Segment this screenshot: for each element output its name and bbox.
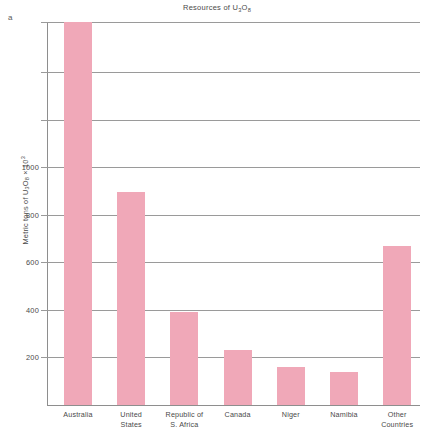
bar bbox=[383, 246, 411, 405]
gridline-800 bbox=[47, 215, 420, 216]
panel-letter: a bbox=[8, 13, 13, 22]
y-tick-mark-800 bbox=[41, 215, 47, 216]
y-axis-title-mid: O bbox=[21, 180, 30, 186]
gridline-600 bbox=[47, 262, 420, 263]
y-tick-mark-1610 bbox=[41, 22, 47, 23]
x-tick-label-line: Other bbox=[365, 410, 429, 420]
x-tick-label-line: Countries bbox=[365, 420, 429, 430]
bar bbox=[170, 312, 198, 405]
chart-title: Resources of U3O8 bbox=[0, 3, 434, 13]
chart-title-subscript-8: 8 bbox=[248, 7, 251, 13]
y-tick-mark-1400 bbox=[41, 72, 47, 73]
bar bbox=[117, 192, 145, 405]
figure-container: a Resources of U3O8 Metric tons of U3O8 … bbox=[0, 0, 434, 434]
y-tick-mark-1000 bbox=[41, 167, 47, 168]
x-tick-label-line: S. Africa bbox=[152, 420, 216, 430]
y-tick-label-600: 600 bbox=[26, 258, 39, 267]
bar bbox=[224, 350, 252, 405]
gridline-1400 bbox=[47, 72, 420, 73]
y-axis-spine bbox=[47, 22, 48, 405]
bar bbox=[330, 372, 358, 405]
bar bbox=[64, 22, 92, 405]
y-tick-label-800: 800 bbox=[26, 210, 39, 219]
y-axis-title-subscript-8: 8 bbox=[24, 177, 30, 180]
gridline-400 bbox=[47, 310, 420, 311]
y-tick-mark-1200 bbox=[41, 120, 47, 121]
bar bbox=[277, 367, 305, 405]
y-tick-label-1000: 1000 bbox=[22, 163, 39, 172]
y-tick-mark-400 bbox=[41, 310, 47, 311]
y-axis-title-subscript-3: 3 bbox=[24, 186, 30, 189]
y-tick-mark-600 bbox=[41, 262, 47, 263]
plot-area: 2004006008001000 AustraliaUnitedStatesRe… bbox=[47, 22, 420, 405]
y-tick-label-200: 200 bbox=[26, 353, 39, 362]
y-axis-title-exponent: 3 bbox=[20, 156, 26, 159]
chart-title-prefix: Resources of U bbox=[183, 3, 238, 12]
y-axis-title: Metric tons of U3O8 × 103 bbox=[20, 120, 31, 280]
gridline-1000 bbox=[47, 167, 420, 168]
gridline-1200 bbox=[47, 120, 420, 121]
x-axis-baseline bbox=[47, 405, 420, 406]
y-tick-mark-200 bbox=[41, 357, 47, 358]
gridline-1610 bbox=[47, 22, 420, 23]
y-tick-label-400: 400 bbox=[26, 305, 39, 314]
x-tick-label: OtherCountries bbox=[365, 410, 429, 429]
